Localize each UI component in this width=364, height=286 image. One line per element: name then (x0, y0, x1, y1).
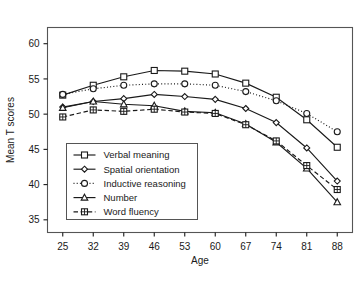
x-tick-label: 67 (240, 241, 252, 252)
x-tick-label: 60 (210, 241, 222, 252)
data-point (243, 89, 249, 95)
data-point (90, 86, 96, 92)
data-point (151, 81, 157, 87)
legend-marker (82, 180, 88, 186)
data-point (182, 81, 188, 87)
x-axis: 25323946536067748188 (57, 233, 343, 252)
data-point (334, 129, 340, 135)
data-point (121, 74, 127, 80)
x-axis-title: Age (191, 255, 209, 266)
y-axis: 354045505560 (28, 38, 47, 225)
x-tick-label: 88 (332, 241, 344, 252)
y-tick-label: 40 (28, 179, 40, 190)
legend-label: Word fluency (104, 206, 160, 217)
legend-label: Number (104, 192, 138, 203)
legend-label: Inductive reasoning (104, 178, 186, 189)
y-tick-label: 50 (28, 109, 40, 120)
legend: Verbal meaningSpatial orientationInducti… (67, 144, 198, 220)
y-tick-label: 35 (28, 214, 40, 225)
data-point (121, 82, 127, 88)
legend-marker (82, 152, 88, 158)
data-point (151, 67, 157, 73)
data-point (212, 82, 218, 88)
x-tick-label: 39 (118, 241, 130, 252)
x-tick-label: 25 (57, 241, 69, 252)
mean-t-scores-line-chart: 35404550556025323946536067748188AgeMean … (0, 0, 364, 286)
data-point (304, 117, 310, 123)
y-tick-label: 60 (28, 38, 40, 49)
data-point (304, 110, 310, 116)
x-tick-label: 53 (179, 241, 191, 252)
x-tick-label: 32 (88, 241, 100, 252)
x-tick-label: 81 (301, 241, 313, 252)
legend-label: Spatial orientation (104, 164, 180, 175)
data-point (334, 144, 340, 150)
legend-label: Verbal meaning (104, 149, 170, 160)
data-point (182, 68, 188, 74)
data-point (212, 71, 218, 77)
x-tick-label: 46 (149, 241, 161, 252)
x-tick-label: 74 (271, 241, 283, 252)
y-axis-title: Mean T scores (5, 97, 16, 163)
y-tick-label: 55 (28, 74, 40, 85)
data-point (243, 80, 249, 86)
y-tick-label: 45 (28, 144, 40, 155)
chart-figure: 35404550556025323946536067748188AgeMean … (0, 0, 364, 286)
data-point (60, 91, 66, 97)
data-point (273, 98, 279, 104)
